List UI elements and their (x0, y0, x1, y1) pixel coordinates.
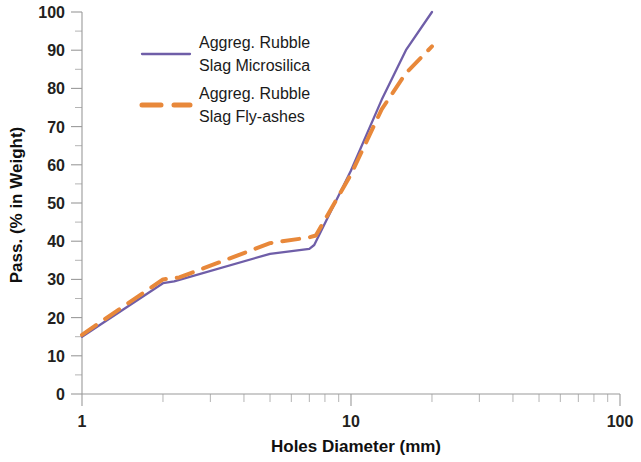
y-tick-label: 0 (56, 386, 65, 403)
line-chart: 0102030405060708090100 110100 Holes Diam… (0, 0, 641, 462)
y-tick-label: 90 (47, 42, 65, 59)
y-tick-label: 80 (47, 80, 65, 97)
legend-label-flyashes-line1: Aggreg. Rubble (199, 85, 310, 102)
y-tick-label: 10 (47, 348, 65, 365)
x-axis-tick-labels: 110100 (78, 413, 634, 430)
y-tick-label: 50 (47, 195, 65, 212)
y-tick-label: 100 (38, 4, 65, 21)
x-axis-title: Holes Diameter (mm) (271, 437, 441, 456)
y-tick-label: 30 (47, 271, 65, 288)
y-axis-tick-labels: 0102030405060708090100 (38, 4, 65, 403)
legend-label-microsilica-line2: Slag Microsilica (199, 57, 310, 74)
y-axis-title: Pass. (% in Weight) (7, 127, 26, 284)
x-tick-label: 10 (342, 413, 360, 430)
y-tick-label: 70 (47, 119, 65, 136)
y-tick-label: 40 (47, 233, 65, 250)
y-tick-label: 20 (47, 310, 65, 327)
x-axis-minor-ticks (163, 394, 608, 402)
chart-legend: Aggreg. Rubble Slag Microsilica Aggreg. … (142, 34, 310, 125)
legend-label-flyashes-line2: Slag Fly-ashes (199, 108, 305, 125)
x-tick-label: 1 (78, 413, 87, 430)
y-tick-label: 60 (47, 157, 65, 174)
legend-label-microsilica-line1: Aggreg. Rubble (199, 34, 310, 51)
x-tick-label: 100 (607, 413, 634, 430)
chart-page: 0102030405060708090100 110100 Holes Diam… (0, 0, 641, 462)
